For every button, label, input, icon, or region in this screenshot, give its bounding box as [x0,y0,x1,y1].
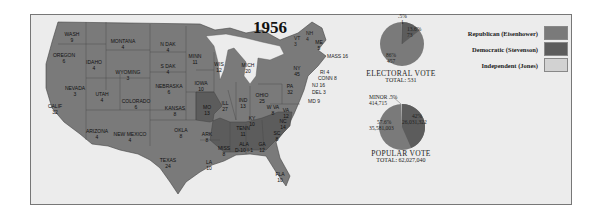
state-label: MINN11 [189,53,202,65]
state-label: S DAK4 [160,63,175,75]
state-label: FLA10 [275,171,284,183]
state-label: NEVADA3 [65,85,85,97]
state-label: NC14 [279,118,286,130]
electoral-vote-caption: ELECTORAL VOTE TOTAL: 531 [366,70,435,84]
state-label: MO13 [203,104,211,116]
popular-vote-caption: POPULAR VOTE TOTAL: 62,027,040 [371,150,431,164]
independent-swatch [544,58,568,72]
state-label: UTAH4 [95,91,108,103]
state-label: WASH9 [65,31,80,43]
state-callout: CONN 8 [318,75,337,81]
state-label: OHIO25 [256,92,269,104]
electoral-democratic-label: 13.6%73 [407,26,421,38]
popular-republican-label: 57.6%35,581,003 [369,119,394,131]
state-label: MISS8 [218,145,230,157]
state-label: ARIZONA4 [86,128,108,140]
electoral-republican-label: 86%457 [386,52,396,64]
state-callout: NH4 [306,30,313,42]
state-label: CALIF32 [48,103,62,115]
state-callout: MD 9 [308,98,320,104]
state-label: TENN11 [236,125,250,137]
state-callout: DEL 3 [312,89,326,95]
state-label: ME5 [315,39,323,51]
state-label: IDAHO4 [86,59,102,71]
state-label: MICH20 [242,62,255,74]
state-label: COLORADO6 [122,98,151,110]
state-label: GA12 [258,141,265,153]
state-label: WIS12 [214,61,223,73]
state-label: NEW MEXICO4 [114,131,147,143]
state-label: TEXAS24 [160,157,176,169]
legend-democratic: Democratic (Stevenson) [472,42,568,56]
state-label: WYOMING3 [116,69,141,81]
popular-minor-label: MINOR .5% 414,715 [369,94,397,106]
state-label: OKLA8 [174,127,187,139]
state-label: PA32 [287,83,293,95]
state-label: ILL27 [222,100,229,112]
state-callout: NJ 16 [312,82,325,88]
state-label: NEBRASKA6 [155,83,182,95]
state-label: IND13 [239,97,248,109]
state-label: N DAK4 [160,41,175,53]
state-label: NY45 [294,65,301,77]
state-label: KANSAS8 [165,105,185,117]
state-label: ALAD-10 I-1 [235,141,253,153]
legend-independent: Independent (Jones) [481,58,568,72]
state-label: SC8 [274,130,281,142]
republican-swatch [544,26,568,40]
legend-republican: Republican (Eisenhower) [468,26,568,40]
state-label: VA12 [283,107,289,119]
state-callout: VT3 [294,35,300,47]
state-label: MONTANA4 [111,38,136,50]
map-title: 1956 [253,18,287,38]
state-label: W VA8 [267,104,279,116]
electoral-independent-label: .5%1 [398,13,407,25]
state-label: LA10 [206,159,212,171]
democratic-swatch [544,42,568,56]
state-callout: MASS 16 [327,53,348,59]
popular-democratic-label: 42%26,031,322 [402,113,427,125]
state-label: ARK8 [202,131,212,143]
state-label: IOWA10 [194,80,207,92]
state-label: OREGON6 [53,52,75,64]
